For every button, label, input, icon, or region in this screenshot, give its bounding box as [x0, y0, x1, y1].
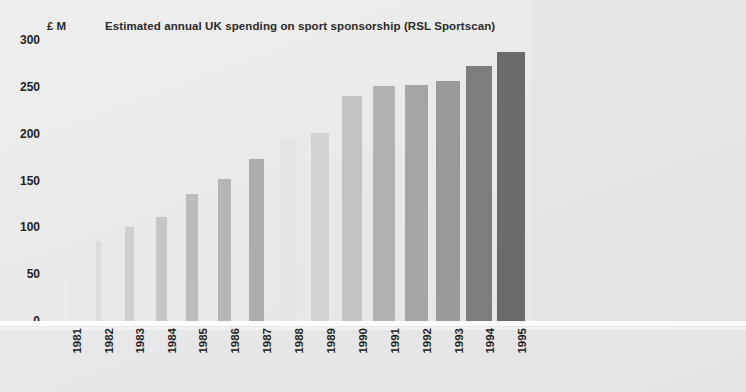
y-axis-tick-label: 200 [20, 127, 40, 141]
bar [96, 241, 101, 321]
x-axis-tick-label: 1993 [453, 328, 465, 354]
x-axis-tick-label: 1987 [261, 328, 273, 354]
x-axis-tick-label: 1988 [293, 328, 305, 354]
bar [436, 81, 460, 321]
x-axis-tick-label: 1982 [103, 328, 115, 354]
x-axis-tick-label: 1994 [484, 328, 496, 354]
bar [280, 139, 297, 321]
plot-area [48, 40, 546, 321]
bar [186, 194, 198, 321]
bar [218, 179, 231, 321]
y-axis-tick-label: 300 [20, 33, 40, 47]
chart-title: Estimated annual UK spending on sport sp… [105, 20, 495, 32]
x-axis-tick-label: 1986 [229, 328, 241, 354]
y-axis-unit-label: £ M [47, 20, 66, 32]
x-axis-tick-label: 1985 [197, 328, 209, 354]
x-axis-tick-label: 1981 [71, 328, 83, 354]
x-axis-tick-label: 1984 [166, 328, 178, 354]
x-axis-tick-label: 1990 [357, 328, 369, 354]
bar [373, 86, 395, 321]
bar [125, 227, 134, 321]
bar [249, 159, 264, 321]
x-axis-tick-label: 1989 [325, 328, 337, 354]
empty-right-panel [532, 0, 746, 321]
x-axis-tick-label: 1983 [134, 328, 146, 354]
bar [466, 66, 492, 321]
chart-container: £ M Estimated annual UK spending on spor… [0, 0, 746, 392]
bar [405, 85, 428, 321]
x-axis: 1981198219831984198519861987198819891990… [48, 324, 546, 392]
y-axis-tick-label: 100 [20, 220, 40, 234]
y-axis-tick-label: 250 [20, 80, 40, 94]
y-axis-tick-label: 50 [27, 267, 40, 281]
x-axis-tick-label: 1992 [421, 328, 433, 354]
bar [311, 133, 329, 321]
y-axis-tick-label: 150 [20, 174, 40, 188]
bar [156, 217, 167, 321]
bar [497, 52, 525, 321]
bar [342, 96, 362, 321]
y-axis: 050100150200250300 [0, 0, 40, 392]
bar [64, 278, 68, 321]
x-axis-tick-label: 1991 [389, 328, 401, 354]
x-axis-tick-label: 1995 [516, 328, 528, 354]
